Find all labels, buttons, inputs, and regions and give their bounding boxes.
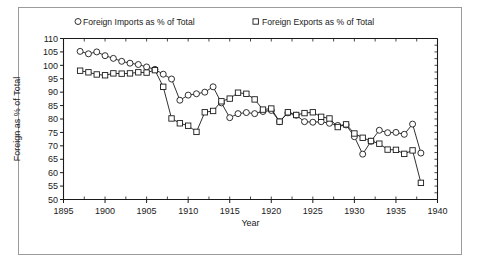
data-point-circle xyxy=(144,64,150,70)
legend-label-imports: Foreign Imports as % of Total xyxy=(83,17,195,27)
data-point-square xyxy=(327,116,332,121)
data-point-circle xyxy=(302,119,308,125)
data-point-circle xyxy=(160,71,166,77)
data-point-square xyxy=(410,148,415,153)
data-point-circle xyxy=(85,51,91,57)
data-point-square xyxy=(368,138,373,143)
data-point-square xyxy=(244,91,249,96)
y-tick-label: 70 xyxy=(48,141,58,151)
data-point-square xyxy=(277,119,282,124)
data-point-square xyxy=(285,110,290,115)
data-point-circle xyxy=(243,110,249,116)
legend-marker-square xyxy=(253,19,258,24)
y-tick-label: 100 xyxy=(43,61,58,71)
x-tick-label: 1895 xyxy=(53,206,73,216)
data-point-square xyxy=(393,147,398,152)
data-point-circle xyxy=(193,91,199,97)
data-point-square xyxy=(269,106,274,111)
x-tick-label: 1935 xyxy=(386,206,406,216)
data-point-square xyxy=(202,110,207,115)
y-tick-label: 110 xyxy=(44,34,58,44)
x-tick-label: 1940 xyxy=(427,206,447,216)
data-point-square xyxy=(235,90,240,95)
chart-svg: 5055606570758085909510010511018951900190… xyxy=(0,0,480,264)
x-tick-label: 1930 xyxy=(344,206,364,216)
data-point-square xyxy=(194,129,199,134)
y-tick-label: 60 xyxy=(48,168,58,178)
x-tick-label: 1915 xyxy=(220,206,240,216)
x-axis-title: Year xyxy=(241,218,259,228)
data-point-circle xyxy=(135,62,141,68)
data-point-square xyxy=(418,180,423,185)
data-point-square xyxy=(343,122,348,127)
y-tick-label: 55 xyxy=(48,181,58,191)
data-point-circle xyxy=(393,129,399,135)
data-point-circle xyxy=(185,92,191,98)
data-point-circle xyxy=(127,60,133,66)
data-point-square xyxy=(144,70,149,75)
data-point-circle xyxy=(102,53,108,59)
data-point-circle xyxy=(77,48,83,54)
data-point-square xyxy=(219,99,224,104)
y-axis-title: Foreign as % of Total xyxy=(12,77,22,161)
data-point-square xyxy=(310,110,315,115)
data-point-square xyxy=(210,108,215,113)
data-point-square xyxy=(185,123,190,128)
data-point-square xyxy=(111,71,116,76)
legend-label-exports: Foreign Exports as % of Total xyxy=(262,17,374,27)
data-point-circle xyxy=(177,97,183,103)
data-point-circle xyxy=(235,111,241,117)
data-point-square xyxy=(377,141,382,146)
legend-marker-circle xyxy=(75,19,81,25)
x-tick-label: 1910 xyxy=(178,206,198,216)
data-point-square xyxy=(318,114,323,119)
data-point-square xyxy=(86,70,91,75)
data-point-square xyxy=(335,124,340,129)
data-point-square xyxy=(127,71,132,76)
data-point-square xyxy=(161,84,166,89)
data-point-circle xyxy=(310,119,316,125)
chart-plot-area: 5055606570758085909510010511018951900190… xyxy=(0,0,480,264)
data-point-square xyxy=(136,70,141,75)
data-point-circle xyxy=(169,76,175,82)
y-tick-label: 80 xyxy=(48,114,58,124)
data-point-circle xyxy=(360,151,366,157)
y-tick-label: 50 xyxy=(48,195,58,205)
series-line-2 xyxy=(80,70,421,183)
data-point-square xyxy=(94,72,99,77)
data-point-square xyxy=(77,68,82,73)
data-point-square xyxy=(227,96,232,101)
x-tick-label: 1925 xyxy=(303,206,323,216)
data-point-circle xyxy=(401,131,407,137)
data-point-circle xyxy=(202,89,208,95)
y-tick-label: 85 xyxy=(48,101,58,111)
data-point-circle xyxy=(110,55,116,61)
data-point-square xyxy=(152,67,157,72)
data-point-circle xyxy=(210,84,216,90)
data-point-square xyxy=(102,73,107,78)
data-point-circle xyxy=(385,130,391,136)
data-point-circle xyxy=(376,127,382,133)
x-tick-label: 1905 xyxy=(137,206,157,216)
data-point-square xyxy=(402,151,407,156)
data-point-square xyxy=(119,71,124,76)
x-tick-label: 1920 xyxy=(261,206,281,216)
data-point-square xyxy=(360,135,365,140)
data-point-square xyxy=(352,131,357,136)
data-point-circle xyxy=(227,115,233,121)
x-tick-label: 1900 xyxy=(95,206,115,216)
data-point-square xyxy=(260,107,265,112)
data-point-circle xyxy=(94,49,100,55)
data-point-square xyxy=(294,112,299,117)
data-point-circle xyxy=(418,150,424,156)
data-point-square xyxy=(302,110,307,115)
data-point-circle xyxy=(252,111,258,117)
data-point-circle xyxy=(119,58,125,64)
data-point-square xyxy=(385,147,390,152)
data-point-square xyxy=(252,97,257,102)
y-tick-label: 90 xyxy=(48,87,58,97)
figure-container: 5055606570758085909510010511018951900190… xyxy=(0,0,480,264)
data-point-square xyxy=(169,116,174,121)
y-tick-label: 65 xyxy=(48,154,58,164)
y-tick-label: 95 xyxy=(48,74,58,84)
